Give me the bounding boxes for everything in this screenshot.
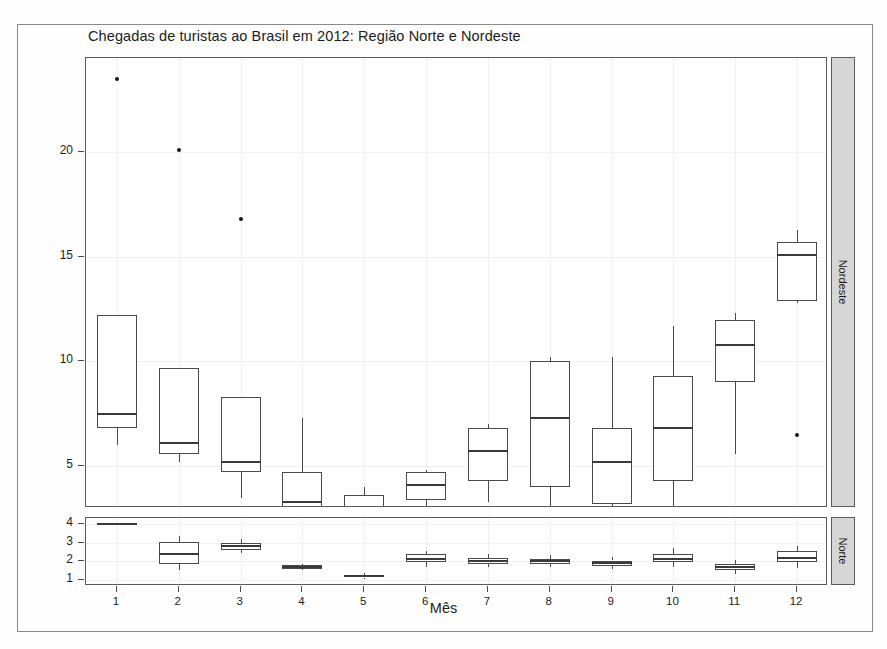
median-line bbox=[653, 558, 693, 560]
y-tick-label: 10 bbox=[39, 352, 73, 366]
grid-line-horizontal bbox=[86, 524, 826, 525]
median-line bbox=[715, 566, 755, 568]
y-tick-label: 5 bbox=[39, 457, 73, 471]
grid-line-horizontal bbox=[86, 257, 826, 258]
median-line bbox=[221, 461, 261, 463]
x-tick-mark bbox=[240, 586, 241, 592]
x-tick-label: 12 bbox=[781, 595, 811, 607]
median-line bbox=[777, 254, 817, 256]
whisker-upper bbox=[673, 326, 674, 376]
grid-line-vertical bbox=[488, 518, 489, 584]
outlier-point bbox=[795, 433, 799, 437]
strip-nordeste: Nordeste bbox=[831, 57, 855, 507]
x-tick-mark bbox=[116, 586, 117, 592]
whisker-lower bbox=[179, 564, 180, 570]
x-tick-label: 3 bbox=[225, 595, 255, 607]
x-tick-mark bbox=[796, 586, 797, 592]
box-plot-box bbox=[97, 315, 137, 428]
whisker-lower bbox=[179, 454, 180, 462]
strip-label-nordeste: Nordeste bbox=[837, 260, 849, 305]
whisker-lower bbox=[612, 566, 613, 569]
whisker-upper bbox=[612, 357, 613, 428]
y-tick-label: 15 bbox=[39, 248, 73, 262]
x-tick-mark bbox=[487, 586, 488, 592]
y-tick-mark bbox=[78, 465, 84, 466]
whisker-lower bbox=[488, 481, 489, 502]
y-tick-label: 4 bbox=[39, 515, 73, 529]
box-plot-box bbox=[777, 242, 817, 301]
median-line bbox=[592, 562, 632, 564]
box-plot-box bbox=[530, 361, 570, 487]
outlier-point bbox=[177, 148, 181, 152]
whisker-lower bbox=[797, 301, 798, 303]
median-line bbox=[282, 566, 322, 568]
x-axis-label: Mês bbox=[0, 600, 887, 616]
whisker-lower bbox=[612, 504, 613, 507]
x-tick-label: 8 bbox=[534, 595, 564, 607]
median-line bbox=[159, 442, 199, 444]
outlier-point bbox=[239, 217, 243, 221]
grid-line-vertical bbox=[364, 58, 365, 506]
y-tick-label: 3 bbox=[39, 534, 73, 548]
whisker-upper bbox=[364, 487, 365, 495]
box-plot-box bbox=[592, 428, 632, 503]
median-line bbox=[97, 413, 137, 415]
whisker-lower bbox=[117, 428, 118, 445]
median-line bbox=[97, 523, 137, 525]
y-tick-mark bbox=[78, 360, 84, 361]
y-tick-label: 1 bbox=[39, 571, 73, 585]
x-tick-label: 1 bbox=[101, 595, 131, 607]
grid-line-vertical bbox=[735, 518, 736, 584]
strip-label-norte: Norte bbox=[837, 538, 849, 565]
whisker-lower bbox=[673, 481, 674, 507]
x-tick-mark bbox=[178, 586, 179, 592]
box-plot-box bbox=[715, 320, 755, 383]
outlier-point bbox=[115, 77, 119, 81]
median-line bbox=[715, 344, 755, 346]
median-line bbox=[468, 450, 508, 452]
grid-line-vertical bbox=[117, 518, 118, 584]
median-line bbox=[653, 427, 693, 429]
grid-line-vertical bbox=[612, 518, 613, 584]
whisker-lower bbox=[797, 562, 798, 568]
median-line bbox=[530, 560, 570, 562]
median-line bbox=[344, 575, 384, 577]
x-tick-label: 7 bbox=[472, 595, 502, 607]
x-tick-label: 9 bbox=[596, 595, 626, 607]
x-tick-label: 5 bbox=[348, 595, 378, 607]
y-tick-mark bbox=[78, 560, 84, 561]
whisker-upper bbox=[302, 418, 303, 472]
whisker-lower bbox=[488, 564, 489, 567]
median-line bbox=[406, 484, 446, 486]
median-line bbox=[406, 558, 446, 560]
panel-nordeste bbox=[85, 57, 827, 507]
x-tick-label: 10 bbox=[657, 595, 687, 607]
whisker-lower bbox=[302, 569, 303, 570]
box-plot-box bbox=[468, 428, 508, 480]
grid-line-horizontal bbox=[86, 152, 826, 153]
y-tick-label: 20 bbox=[39, 143, 73, 157]
y-tick-mark bbox=[78, 151, 84, 152]
y-tick-mark bbox=[78, 542, 84, 543]
median-line bbox=[530, 417, 570, 419]
x-tick-mark bbox=[734, 586, 735, 592]
grid-line-horizontal bbox=[86, 580, 826, 581]
median-line bbox=[221, 545, 261, 547]
chart-page: Chegadas de turistas ao Brasil em 2012: … bbox=[0, 0, 887, 649]
grid-line-vertical bbox=[426, 58, 427, 506]
y-tick-mark bbox=[78, 579, 84, 580]
median-line bbox=[777, 557, 817, 559]
x-tick-label: 11 bbox=[719, 595, 749, 607]
y-tick-label: 2 bbox=[39, 552, 73, 566]
median-line bbox=[592, 461, 632, 463]
x-tick-mark bbox=[672, 586, 673, 592]
whisker-lower bbox=[364, 578, 365, 580]
whisker-lower bbox=[735, 382, 736, 453]
box-plot-box bbox=[344, 495, 384, 507]
whisker-upper bbox=[797, 230, 798, 243]
whisker-lower bbox=[426, 500, 427, 507]
grid-line-vertical bbox=[302, 518, 303, 584]
x-tick-mark bbox=[301, 586, 302, 592]
whisker-lower bbox=[550, 487, 551, 507]
strip-norte: Norte bbox=[831, 517, 855, 585]
